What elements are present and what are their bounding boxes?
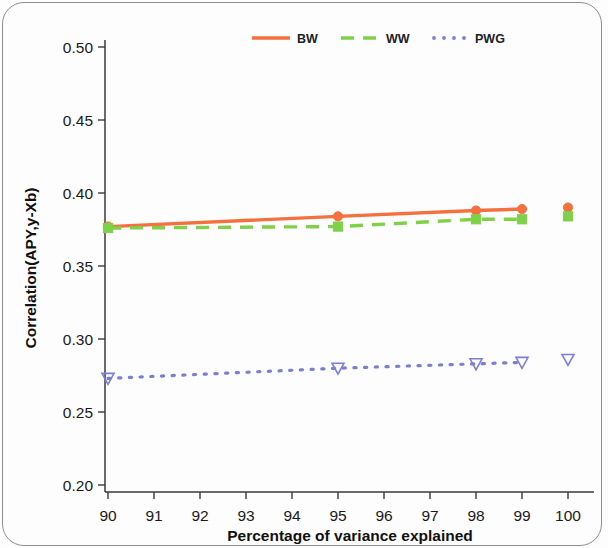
x-tick-label: 93: [237, 507, 254, 524]
chart-legend: BWWWPWG: [252, 32, 505, 46]
marker-square-ww: [471, 215, 480, 224]
x-tick-label: 90: [99, 507, 117, 524]
data-series-layer: [102, 203, 574, 384]
x-tick-label: 95: [329, 507, 346, 524]
marker-circle-bw: [517, 204, 526, 213]
x-tick-label: 98: [467, 507, 484, 524]
legend-entry-bw[interactable]: BW: [252, 32, 318, 46]
marker-square-ww: [333, 222, 342, 231]
y-axis-tick-labels: 0.200.250.300.350.400.450.50: [63, 39, 94, 494]
legend-dot-pwg: [432, 36, 436, 40]
x-tick-label: 94: [283, 507, 301, 524]
marker-square-ww: [103, 223, 112, 232]
y-axis: 0.200.250.300.350.400.450.50 Correlation…: [22, 39, 105, 494]
x-axis-tick-labels: 90919293949596979899100: [99, 507, 581, 524]
x-tick-label: 100: [555, 507, 581, 524]
marker-square-ww: [517, 215, 526, 224]
y-tick-label: 0.45: [63, 112, 93, 129]
legend-label-bw: BW: [297, 32, 318, 46]
y-tick-label: 0.35: [63, 258, 93, 275]
y-axis-title: Correlation(APY,y-Xb): [22, 187, 39, 348]
x-tick-label: 96: [375, 507, 392, 524]
marker-square-ww: [563, 212, 572, 221]
correlation-line-chart: 0.200.250.300.350.400.450.50 Correlation…: [0, 0, 608, 548]
legend-dot-pwg: [452, 36, 456, 40]
chart-figure: 0.200.250.300.350.400.450.50 Correlation…: [0, 0, 608, 548]
series-line-bw: [108, 209, 522, 227]
marker-triangle-pwg: [562, 354, 574, 365]
x-axis-ticks: [108, 492, 568, 499]
marker-circle-bw: [333, 212, 342, 221]
y-tick-label: 0.20: [63, 477, 94, 494]
y-tick-label: 0.50: [63, 39, 94, 56]
marker-circle-bw: [471, 206, 480, 215]
y-tick-label: 0.25: [63, 404, 93, 421]
series-line-pwg: [108, 362, 522, 378]
y-axis-ticks: [98, 47, 105, 485]
x-tick-label: 99: [513, 507, 530, 524]
marker-circle-bw: [563, 203, 572, 212]
legend-label-pwg: PWG: [475, 32, 505, 46]
series-pwg: [102, 354, 574, 384]
legend-dot-pwg: [442, 36, 446, 40]
y-tick-label: 0.40: [63, 185, 94, 202]
legend-entry-pwg[interactable]: PWG: [432, 32, 505, 46]
y-tick-label: 0.30: [63, 331, 94, 348]
legend-entry-ww[interactable]: WW: [341, 32, 410, 46]
legend-label-ww: WW: [386, 32, 410, 46]
x-axis-title: Percentage of variance explained: [227, 527, 473, 544]
legend-dot-pwg: [462, 36, 466, 40]
x-axis: 90919293949596979899100 Percentage of va…: [99, 492, 594, 544]
x-tick-label: 92: [191, 507, 208, 524]
x-tick-label: 91: [145, 507, 162, 524]
x-tick-label: 97: [421, 507, 438, 524]
